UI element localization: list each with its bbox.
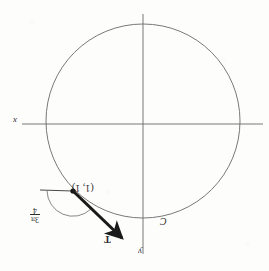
x-axis-label: x — [13, 116, 17, 125]
curve-label-c: C — [160, 216, 167, 226]
y-axis-label: y — [138, 247, 142, 256]
point-coordinate-label: (1, 1) — [72, 183, 94, 193]
angle-label-denominator: 4 — [32, 206, 38, 214]
angle-label: 3π 4 — [30, 206, 40, 223]
tangent-vector-arrow — [73, 191, 122, 238]
figure-container: x y C (1, 1) T 3π 4 — [0, 0, 269, 271]
tangent-vector-label: T — [104, 234, 111, 244]
angle-label-numerator: 3π — [30, 214, 40, 223]
reference-ray-line — [40, 190, 73, 191]
figure-drawing — [0, 0, 269, 271]
